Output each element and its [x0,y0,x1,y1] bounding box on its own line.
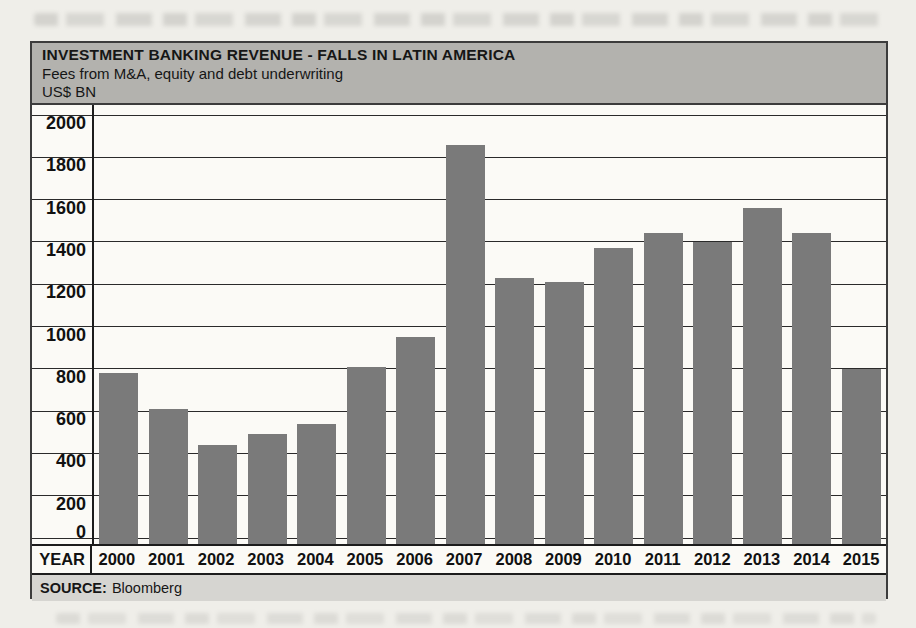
chart-units-label: US$ BN [42,83,876,102]
bar-slot [391,105,441,544]
bar-slot [490,105,540,544]
y-tick-label: 1000 [46,324,86,345]
bar-slot [342,105,392,544]
bar-2003 [248,434,287,544]
y-axis-gutter: 2000180016001400120010008006004002000 [32,105,92,544]
bar-2004 [297,424,336,544]
bar-2005 [347,367,386,544]
year-label: 2008 [489,550,539,569]
bar-2002 [198,445,237,544]
plot-area [92,105,886,544]
bar-slot [243,105,293,544]
bar-slot [688,105,738,544]
bar-2011 [644,233,683,544]
chart-header: INVESTMENT BANKING REVENUE - FALLS IN LA… [32,43,886,105]
bar-2000 [99,373,138,544]
year-label: 2012 [688,550,738,569]
source-value: Bloomberg [112,580,182,596]
year-label: 2004 [291,550,341,569]
bar-2015 [842,369,881,544]
bar-slot [292,105,342,544]
y-tick-label: 1600 [46,197,86,218]
bar-2006 [396,337,435,544]
chart-title: INVESTMENT BANKING REVENUE - FALLS IN LA… [42,46,876,65]
year-label: 2003 [241,550,291,569]
year-label: 2010 [588,550,638,569]
year-label: 2011 [638,550,688,569]
bar-2007 [446,145,485,544]
chart-main: 2000180016001400120010008006004002000 [32,105,886,546]
bar-slot [738,105,788,544]
scanned-page: INVESTMENT BANKING REVENUE - FALLS IN LA… [0,0,916,628]
bar-slot [193,105,243,544]
bars-row [94,105,886,544]
year-label: 2002 [191,550,241,569]
y-tick-label: 800 [56,366,86,387]
bar-2009 [545,282,584,544]
y-tick-label: 1800 [46,155,86,176]
year-label: 2009 [539,550,589,569]
x-axis-title: YEAR [32,546,92,573]
bar-slot [589,105,639,544]
chart-panel: INVESTMENT BANKING REVENUE - FALLS IN LA… [30,41,888,599]
bar-2013 [743,208,782,544]
year-label: 2005 [340,550,390,569]
y-tick-label: 1400 [46,239,86,260]
year-label: 2000 [92,550,142,569]
ghost-text-top [34,13,886,26]
y-tick-label: 1200 [46,282,86,303]
chart-subtitle: Fees from M&A, equity and debt underwrit… [42,65,876,84]
source-row: SOURCE: Bloomberg [32,575,886,601]
bar-slot [540,105,590,544]
y-tick-label: 0 [76,522,86,543]
y-tick-label: 400 [56,451,86,472]
bar-2008 [495,278,534,544]
x-axis-row: YEAR 20002001200220032004200520062007200… [32,546,886,575]
year-label: 2014 [787,550,837,569]
bar-slot [441,105,491,544]
year-label: 2015 [836,550,886,569]
y-tick-label: 200 [56,493,86,514]
y-tick-label: 600 [56,409,86,430]
bar-2014 [792,233,831,544]
bar-slot [837,105,887,544]
bar-2012 [693,242,732,544]
bar-slot [94,105,144,544]
bar-2001 [149,409,188,544]
x-axis-years: 2000200120022003200420052006200720082009… [92,546,886,573]
bar-slot [639,105,689,544]
y-tick-label: 2000 [46,113,86,134]
source-label: SOURCE: [40,580,107,596]
year-label: 2006 [390,550,440,569]
ghost-text-bottom [56,613,876,624]
year-label: 2007 [439,550,489,569]
year-label: 2001 [142,550,192,569]
bar-slot [144,105,194,544]
year-label: 2013 [737,550,787,569]
bar-2010 [594,248,633,544]
bar-slot [787,105,837,544]
